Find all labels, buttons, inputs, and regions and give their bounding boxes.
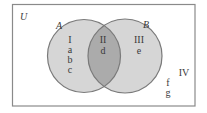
region-iv-label: IV: [179, 67, 190, 78]
element-c: c: [68, 64, 73, 75]
set-b-label: B: [143, 19, 149, 30]
region-ii-label: II: [100, 34, 107, 45]
set-a-label: A: [55, 20, 63, 31]
element-d: d: [101, 45, 106, 56]
element-g: g: [166, 87, 171, 98]
region-iii-label: III: [134, 34, 144, 45]
universe-label: U: [20, 11, 28, 22]
element-e: e: [137, 45, 142, 56]
venn-diagram: U A B I a b c II d III e IV f g: [0, 0, 207, 113]
